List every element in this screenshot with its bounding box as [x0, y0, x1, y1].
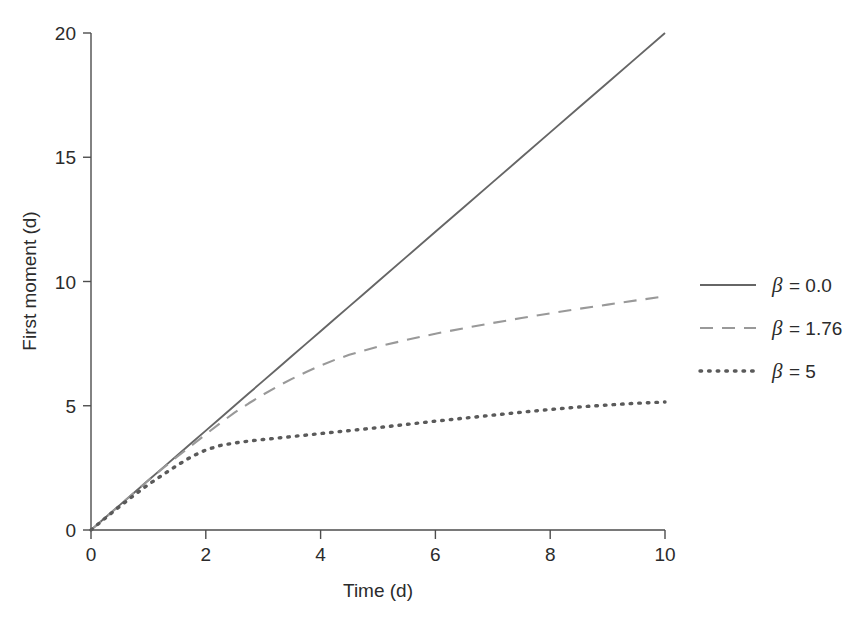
y-axis-tick-labels: 05101520 — [55, 23, 76, 541]
legend-beta-symbol: β — [771, 359, 783, 383]
x-axis-tick-labels: 0246810 — [86, 544, 676, 565]
x-tick-label: 0 — [86, 544, 97, 565]
x-tick-label: 10 — [654, 544, 675, 565]
y-axis-title: First moment (d) — [19, 211, 40, 350]
y-tick-label: 20 — [55, 23, 76, 44]
x-axis-ticks — [91, 530, 665, 539]
x-tick-label: 8 — [545, 544, 556, 565]
legend-beta-symbol: β — [771, 273, 783, 297]
series-line-dashed — [91, 296, 665, 530]
x-tick-label: 6 — [430, 544, 441, 565]
x-tick-label: 2 — [201, 544, 212, 565]
x-axis-title: Time (d) — [343, 580, 413, 601]
y-tick-label: 15 — [55, 147, 76, 168]
line-chart: 05101520 0246810 Time (d) First moment (… — [0, 0, 858, 623]
y-tick-label: 0 — [65, 520, 76, 541]
chart-legend: β= 0.0β= 1.76β= 5 — [700, 273, 842, 383]
y-tick-label: 10 — [55, 272, 76, 293]
x-tick-label: 4 — [315, 544, 326, 565]
legend-entry-label: = 0.0 — [789, 275, 832, 296]
y-axis-ticks — [83, 33, 91, 530]
y-tick-label: 5 — [65, 396, 76, 417]
data-series-group — [91, 33, 665, 530]
legend-beta-symbol: β — [771, 316, 783, 340]
legend-entry-label: = 5 — [789, 361, 816, 382]
series-line-dotted — [91, 402, 665, 530]
chart-figure: 05101520 0246810 Time (d) First moment (… — [0, 0, 858, 623]
legend-entry-label: = 1.76 — [789, 318, 842, 339]
